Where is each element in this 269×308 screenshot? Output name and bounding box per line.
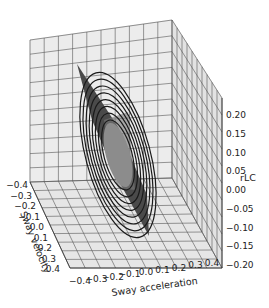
svg-text:−0.1: −0.1	[119, 269, 141, 279]
svg-text:−0.10: −0.10	[226, 223, 254, 233]
svg-text:−0.15: −0.15	[226, 241, 254, 251]
z-axis-label: rLC	[240, 172, 256, 183]
svg-text:0.3: 0.3	[188, 260, 202, 270]
svg-text:−0.4: −0.4	[6, 180, 28, 190]
svg-text:0.2: 0.2	[172, 263, 186, 273]
svg-text:0.15: 0.15	[226, 129, 246, 139]
svg-text:0.1: 0.1	[155, 265, 169, 275]
svg-text:0.20: 0.20	[226, 110, 246, 120]
svg-text:0.00: 0.00	[226, 185, 246, 195]
svg-text:0.0: 0.0	[139, 267, 154, 277]
3d-surface-plot: 0.200.150.100.050.00−0.05−0.10−0.15−0.20…	[0, 0, 269, 308]
svg-text:−0.2: −0.2	[14, 201, 36, 211]
svg-text:−0.05: −0.05	[226, 204, 254, 214]
svg-text:−0.3: −0.3	[10, 191, 32, 201]
svg-text:−0.20: −0.20	[226, 260, 254, 270]
svg-text:0.10: 0.10	[226, 148, 246, 158]
svg-text:0.4: 0.4	[205, 258, 220, 268]
z-axis-ticks: 0.200.150.100.050.00−0.05−0.10−0.15−0.20	[226, 110, 254, 270]
